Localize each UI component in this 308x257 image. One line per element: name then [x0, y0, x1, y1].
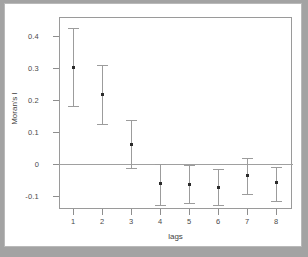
figure-container: 0.4 0.3 0.2 0.1 0 -0.1 1 2 3 4 5 6 7 8 l…	[0, 0, 308, 257]
data-point-marker	[246, 174, 249, 177]
error-bar-cap-lower	[68, 106, 79, 107]
data-point-marker	[72, 66, 75, 69]
data-point-marker	[101, 93, 104, 96]
data-point-marker	[188, 183, 191, 186]
error-bar-cap-lower	[242, 194, 253, 195]
error-bar-cap-upper	[184, 165, 195, 166]
data-point-marker	[159, 182, 162, 185]
error-bar-cap-upper	[271, 167, 282, 168]
error-bar-cap-upper	[126, 120, 137, 121]
error-bar-cap-lower	[126, 168, 137, 169]
error-bar-cap-upper	[97, 65, 108, 66]
data-point-marker	[217, 186, 220, 189]
data-point-marker	[130, 143, 133, 146]
error-bar-cap-lower	[184, 203, 195, 204]
error-bar-cap-lower	[213, 205, 224, 206]
x-axis-label: lags	[59, 232, 292, 241]
error-bar-cap-lower	[271, 201, 282, 202]
error-bar-cap-upper	[68, 28, 79, 29]
error-bar-cap-upper	[242, 158, 253, 159]
data-point-marker	[275, 181, 278, 184]
error-bar-cap-upper	[155, 164, 166, 165]
data-series	[5, 4, 308, 257]
error-bar-cap-upper	[213, 169, 224, 170]
y-axis-label: Moran's I	[10, 79, 19, 139]
error-bar-cap-lower	[97, 124, 108, 125]
chart-canvas: 0.4 0.3 0.2 0.1 0 -0.1 1 2 3 4 5 6 7 8 l…	[5, 4, 301, 246]
error-bar-cap-lower	[155, 205, 166, 206]
